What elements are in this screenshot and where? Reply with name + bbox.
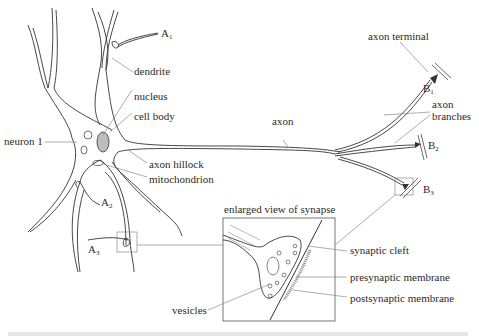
label-presynaptic-membrane: presynaptic membrane — [350, 271, 450, 283]
label-inset-title: enlarged view of synapse — [224, 203, 335, 215]
diagram-canvas: A1 dendrite nucleus cell body neuron 1 a… — [0, 0, 479, 336]
label-synaptic-cleft: synaptic cleft — [350, 244, 409, 256]
axon-path — [240, 63, 451, 198]
cropped-caption — [8, 332, 468, 336]
label-cell-body: cell body — [134, 110, 175, 122]
label-postsynaptic-membrane: postsynaptic membrane — [350, 292, 454, 304]
a3-magnify-box — [117, 232, 137, 252]
label-dendrite: dendrite — [134, 65, 170, 77]
label-vesicles: vesicles — [172, 304, 207, 316]
label-b3: B3 — [423, 183, 434, 197]
label-axon-terminal: axon terminal — [368, 30, 429, 42]
label-axon-branches-2: branches — [432, 110, 471, 122]
label-mitochondrion: mitochondrion — [149, 173, 214, 185]
label-axon: axon — [272, 115, 294, 127]
neuron-body — [28, 8, 240, 272]
label-a3: A3 — [88, 243, 100, 257]
neuron-diagram: A1 dendrite nucleus cell body neuron 1 a… — [0, 0, 479, 336]
inset-frame — [223, 218, 335, 321]
label-b1: B1 — [423, 82, 434, 96]
label-axon-hillock: axon hillock — [149, 158, 204, 170]
label-neuron: neuron 1 — [4, 135, 43, 147]
label-nucleus: nucleus — [134, 90, 168, 102]
label-a2: A2 — [101, 196, 113, 210]
label-axon-branches-1: axon — [432, 98, 454, 110]
label-b2: B2 — [428, 139, 439, 153]
label-a1: A1 — [161, 27, 173, 41]
